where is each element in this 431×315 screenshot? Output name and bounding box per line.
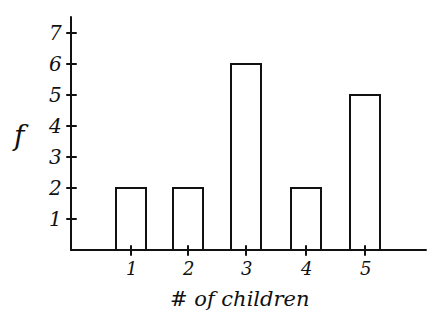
y-axis-label: f [12,119,29,152]
x-tick-label: 5 [360,258,371,279]
bar-5 [350,95,380,250]
x-tick-label: 1 [126,258,137,279]
bars [116,64,380,250]
y-tick-label: 2 [48,176,62,200]
x-tick-label: 4 [300,258,312,279]
y-tick-label: 3 [49,145,62,169]
y-tick-label: 7 [49,21,62,45]
y-tick-label: 4 [48,114,62,138]
bar-3 [231,64,261,250]
x-tick-label: 2 [182,258,194,279]
y-tick-label: 5 [49,83,62,107]
x-axis-label: # of children [170,287,310,311]
y-tick-label: 6 [49,52,62,76]
bar-2 [173,188,203,250]
y-tick-label: 1 [49,207,62,231]
bar-1 [116,188,146,250]
bar-4 [291,188,321,250]
frequency-bar-chart: 1234567 12345 f # of children [0,0,431,315]
x-tick-label: 3 [241,258,252,279]
